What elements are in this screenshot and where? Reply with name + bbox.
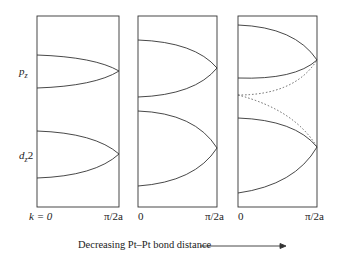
panel-3-end-label: π/2a xyxy=(305,210,324,222)
panel-3-start-label: 0 xyxy=(238,210,244,222)
panel-2-start-label: 0 xyxy=(138,210,144,222)
panel-1-start-label: k = 0 xyxy=(29,210,52,222)
panel-1-end-label: π/2a xyxy=(104,210,123,222)
panel-3 xyxy=(238,16,317,207)
caption: Decreasing Pt–Pt bond distance xyxy=(78,239,211,250)
pz-label: pz xyxy=(19,65,28,80)
panel-2-end-label: π/2a xyxy=(205,210,224,222)
panel-1 xyxy=(37,16,119,207)
dz2-label: dz2 xyxy=(19,149,33,164)
panel-2 xyxy=(138,16,217,207)
arrow xyxy=(200,244,286,249)
